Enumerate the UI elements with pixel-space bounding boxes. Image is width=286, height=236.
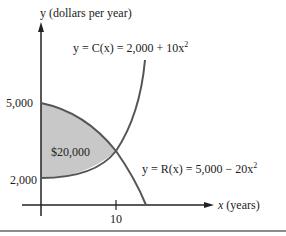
x-var: x [218,198,223,212]
y-tick-5000: 5,000 [6,97,33,109]
area-label: $20,000 [51,146,90,158]
y-axis-label: y (dollars per year) [40,7,132,19]
shaded-area [41,103,116,178]
x-axis-label: x (years) [218,199,260,211]
sq: 2 [184,40,188,49]
y-axis-arrow [38,22,44,32]
sq: 2 [253,161,257,170]
x-tick-label-10: 10 [110,213,122,225]
revenue-equation: y = R(x) = 5,000 − 20x2 [142,162,257,175]
x-unit: (years) [226,198,259,212]
cost-eq-text: y = C(x) = 2,000 + 10x [73,41,184,55]
cost-equation: y = C(x) = 2,000 + 10x2 [73,41,188,54]
x-axis-arrow [204,202,214,208]
y-tick-2000: 2,000 [10,174,37,186]
rev-eq-text: y = R(x) = 5,000 − 20x [142,162,253,176]
